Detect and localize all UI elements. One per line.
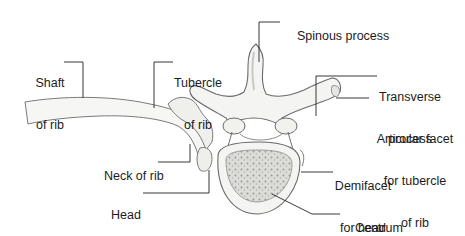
label-text: Spinous process [297, 29, 389, 43]
label-text: Articular facet [370, 132, 460, 146]
label-text: Shaft [35, 76, 65, 90]
label-text: of rib [35, 118, 65, 132]
label-head-of-rib: Head of rib [110, 180, 142, 236]
label-spinous-process: Spinous process [283, 15, 389, 57]
label-text: Transverse [378, 90, 442, 104]
label-text: of rib [172, 118, 224, 132]
label-centrum: Centrum [341, 207, 403, 236]
leader-shaft [64, 62, 83, 98]
label-text: Demifacet [333, 179, 393, 193]
label-text: Centrum [355, 221, 403, 235]
label-shaft-of-rib: Shaft of rib [35, 48, 65, 160]
label-text: Head [110, 208, 142, 222]
vertebra-diagram: Spinous process Shaft of rib Tubercle of… [0, 0, 465, 236]
label-text: Tubercle [172, 76, 224, 90]
label-tubercle-of-rib: Tubercle of rib [172, 48, 224, 160]
leader-tubercle [154, 62, 173, 108]
